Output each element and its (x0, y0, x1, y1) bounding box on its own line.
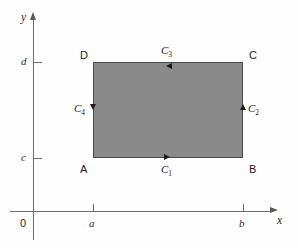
curve-label-c1-sub: 1 (168, 169, 172, 178)
y-axis-label: y (21, 11, 26, 23)
y-tick-label-d: d (21, 55, 27, 67)
vertex-label-b: B (249, 163, 256, 175)
curve-label-c4: C4 (74, 102, 85, 117)
x-tick-label-b: b (239, 217, 245, 229)
curve-arrow-down-icon (90, 104, 96, 110)
y-tick-label-c: c (21, 151, 26, 163)
curve-label-c2: C2 (248, 102, 259, 117)
curve-label-c1: C1 (161, 163, 172, 178)
x-axis-arrowhead-icon (270, 207, 278, 213)
curve-arrow-left-icon (166, 63, 172, 69)
vertex-label-d: D (80, 49, 88, 61)
x-axis-line (10, 211, 272, 212)
curve-label-c4-sub: 4 (81, 108, 85, 117)
curve-label-c3: C3 (161, 44, 172, 59)
x-tick-label-a: a (89, 217, 95, 229)
origin-label: 0 (20, 217, 26, 229)
y-tick-d (34, 62, 42, 63)
shaded-rectangular-region (93, 62, 243, 158)
y-axis-arrowhead-icon (30, 12, 36, 20)
curve-label-c2-sub: 2 (255, 108, 259, 117)
y-tick-c (34, 158, 42, 159)
vertex-label-c: C (249, 49, 257, 61)
figure-canvas: y x d c a b 0 A B C D C1 C2 C3 C4 (0, 0, 298, 248)
x-tick-b (243, 204, 244, 212)
y-axis-line (33, 18, 34, 240)
x-axis-label: x (277, 214, 282, 226)
vertex-label-a: A (80, 163, 87, 175)
curve-arrow-right-icon (164, 154, 170, 160)
x-tick-a (93, 204, 94, 212)
curve-arrow-up-icon (240, 104, 246, 110)
curve-label-c3-sub: 3 (168, 50, 172, 59)
